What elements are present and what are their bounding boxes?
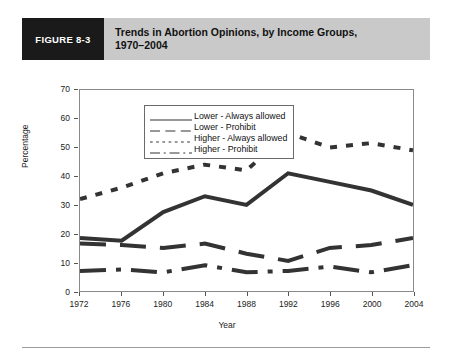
- figure-header: FIGURE 8-3 Trends in Abortion Opinions, …: [22, 18, 430, 60]
- figure-title-bar: Trends in Abortion Opinions, by Income G…: [104, 18, 430, 60]
- y-axis-tick-mark: [74, 176, 78, 177]
- legend-item: Lower - Always allowed: [149, 110, 287, 121]
- legend-item-label: Lower - Prohibit: [194, 122, 256, 132]
- legend-line-swatch-dashdot: [149, 144, 193, 154]
- legend-item-label: Higher - Always allowed: [194, 133, 287, 143]
- figure-title-line-1: Trends in Abortion Opinions, by Income G…: [115, 26, 430, 40]
- series-line-dashed: [80, 238, 413, 261]
- legend-line-swatch-dashed: [149, 122, 193, 132]
- x-axis-tick-label: 1996: [321, 299, 340, 309]
- y-axis-tick-mark: [74, 234, 78, 235]
- figure-title-line-2: 1970–2004: [115, 39, 430, 53]
- x-axis-tick-label: 1984: [195, 299, 214, 309]
- chart-container: Percentage 010203040506070 1972197619801…: [32, 80, 422, 330]
- figure-number-badge: FIGURE 8-3: [22, 18, 104, 60]
- y-axis-tick-label: 70: [34, 84, 70, 94]
- y-axis-tick-mark: [74, 118, 78, 119]
- legend-line-swatch-dotted: [149, 133, 193, 143]
- x-axis-tick-label: 1988: [237, 299, 256, 309]
- y-axis-tick-mark: [74, 263, 78, 264]
- x-axis-tick-label: 1992: [279, 299, 298, 309]
- y-axis-tick-label: 50: [34, 142, 70, 152]
- bottom-divider-rule: [22, 347, 430, 348]
- series-line-dashdot: [80, 265, 413, 272]
- x-axis-tick-mark: [247, 292, 248, 296]
- x-axis-tick-label: 1972: [70, 299, 89, 309]
- x-axis-tick-mark: [163, 292, 164, 296]
- legend-item: Higher - Always allowed: [149, 132, 287, 143]
- x-axis-tick-mark: [205, 292, 206, 296]
- y-axis-tick-label: 20: [34, 229, 70, 239]
- y-axis-tick-label: 0: [34, 287, 70, 297]
- legend-item-label: Lower - Always allowed: [194, 111, 285, 121]
- y-axis-tick-label: 40: [34, 171, 70, 181]
- x-axis-tick-label: 1976: [111, 299, 130, 309]
- x-axis-tick-label: 1980: [153, 299, 172, 309]
- y-axis-tick-mark: [74, 147, 78, 148]
- legend-line-swatch-solid: [149, 111, 193, 121]
- y-axis-tick-mark: [74, 89, 78, 90]
- y-axis-tick-mark: [74, 292, 78, 293]
- x-axis-tick-mark: [121, 292, 122, 296]
- x-axis-tick-mark: [288, 292, 289, 296]
- y-axis-title: Percentage: [20, 125, 30, 168]
- y-axis-tick-label: 10: [34, 258, 70, 268]
- x-axis-tick-mark: [414, 292, 415, 296]
- figure-number-text: FIGURE 8-3: [35, 34, 90, 45]
- y-axis-tick-label: 60: [34, 113, 70, 123]
- legend-item: Higher - Prohibit: [149, 143, 287, 154]
- x-axis-tick-label: 2004: [405, 299, 424, 309]
- legend-item-label: Higher - Prohibit: [194, 144, 258, 154]
- plot-frame: Lower - Always allowedLower - ProhibitHi…: [79, 89, 414, 292]
- legend-item: Lower - Prohibit: [149, 121, 287, 132]
- y-axis-tick-label: 30: [34, 200, 70, 210]
- chart-legend: Lower - Always allowedLower - ProhibitHi…: [144, 105, 294, 159]
- x-axis-tick-mark: [330, 292, 331, 296]
- y-axis-tick-mark: [74, 205, 78, 206]
- x-axis-tick-label: 2000: [363, 299, 382, 309]
- x-axis-tick-mark: [79, 292, 80, 296]
- x-axis-title: Year: [32, 320, 422, 330]
- x-axis-tick-mark: [372, 292, 373, 296]
